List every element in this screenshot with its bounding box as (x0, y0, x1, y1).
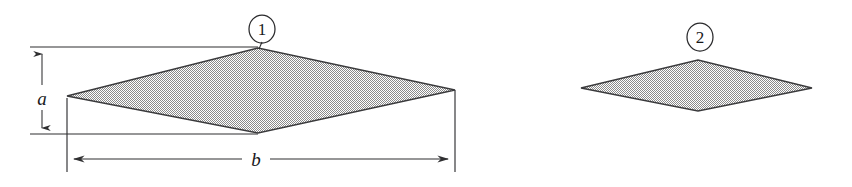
plate-1-callout-number: 1 (258, 20, 267, 39)
rhombic-plate-figure: a b 1 2 (0, 0, 852, 187)
dimension-a-label: a (37, 88, 47, 109)
figure-canvas: a b 1 2 (0, 0, 852, 187)
plate-2-callout-number: 2 (696, 28, 705, 47)
dimension-b-label: b (251, 149, 261, 170)
